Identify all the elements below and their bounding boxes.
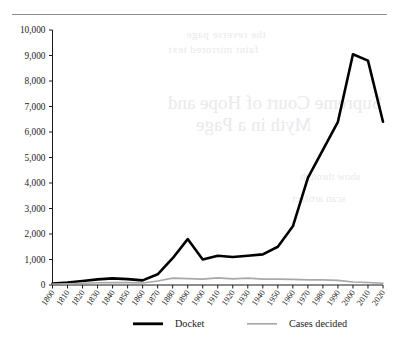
figure: the reverse page faint mirrored text Sup… [0, 0, 399, 344]
x-tick-label: 1890 [175, 288, 192, 307]
x-tick-label: 1840 [100, 288, 117, 307]
x-tick-label: 1860 [130, 288, 147, 307]
x-tick-label: 1800 [40, 288, 57, 307]
y-tick-label: 2,000 [25, 229, 46, 239]
legend-label-cases-decided: Cases decided [289, 318, 347, 329]
x-tick-label: 1870 [145, 288, 162, 307]
y-axis-ticks [49, 30, 53, 285]
x-tick-label: 2000 [340, 288, 357, 307]
y-tick-label: 8,000 [25, 76, 46, 86]
series-line-docket [53, 54, 384, 283]
x-tick-label: 1960 [280, 288, 297, 307]
y-tick-label: 7,000 [25, 102, 46, 112]
x-tick-label: 1980 [310, 288, 327, 307]
line-chart: 01,0002,0003,0004,0005,0006,0007,0008,00… [0, 0, 399, 344]
y-tick-label: 3,000 [25, 204, 46, 214]
legend-label-docket: Docket [175, 318, 205, 329]
x-tick-label: 1930 [235, 288, 252, 307]
x-tick-label: 1940 [250, 288, 267, 307]
x-tick-label: 1970 [295, 288, 312, 307]
y-tick-label: 5,000 [25, 153, 46, 163]
x-tick-label: 1910 [205, 288, 222, 307]
x-tick-label: 1810 [55, 288, 72, 307]
x-axis-ticks [53, 285, 384, 289]
y-tick-label: 1,000 [25, 255, 46, 265]
x-tick-label: 1950 [265, 288, 282, 307]
x-tick-label: 2020 [370, 288, 387, 307]
x-tick-label: 1830 [85, 288, 102, 307]
x-axis-tick-labels: 1800181018201830184018501860187018801890… [40, 288, 387, 307]
x-tick-label: 1820 [70, 288, 87, 307]
y-tick-label: 10,000 [20, 25, 46, 35]
x-tick-label: 2010 [355, 288, 372, 307]
y-tick-label: 0 [41, 280, 46, 290]
data-series-group [53, 54, 384, 284]
x-tick-label: 1920 [220, 288, 237, 307]
y-tick-label: 4,000 [25, 178, 46, 188]
chart-svg: 01,0002,0003,0004,0005,0006,0007,0008,00… [0, 0, 399, 344]
y-axis-tick-labels: 01,0002,0003,0004,0005,0006,0007,0008,00… [20, 25, 46, 290]
x-tick-label: 1990 [325, 288, 342, 307]
x-tick-label: 1900 [190, 288, 207, 307]
y-tick-label: 9,000 [25, 51, 46, 61]
x-tick-label: 1850 [115, 288, 132, 307]
y-tick-label: 6,000 [25, 127, 46, 137]
x-tick-label: 1880 [160, 288, 177, 307]
chart-legend: DocketCases decided [133, 318, 347, 329]
